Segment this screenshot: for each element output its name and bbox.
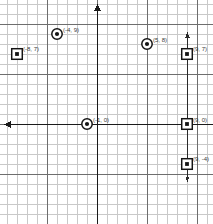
point-marker-square	[181, 48, 194, 61]
point-coordinate-label: (9, 7)	[193, 46, 207, 52]
point-marker-square	[11, 48, 24, 61]
grid-and-axes-layer	[0, 0, 213, 224]
point-coordinate-label: (-1, 0)	[93, 117, 109, 123]
point-marker-square	[181, 118, 194, 131]
point-coordinate-label: (-4, 9)	[63, 27, 79, 33]
coordinate-plot-figure: (-4, 9) (5, 8) (-8, 7) (9, 7) (-1, 0)	[0, 0, 213, 224]
point-coordinate-label: (9, -4)	[193, 156, 209, 162]
point-coordinate-label: (5, 8)	[153, 37, 167, 43]
minor-gridlines	[0, 0, 213, 224]
major-gridlines	[0, 0, 213, 224]
point-marker-circle	[51, 28, 64, 41]
point-coordinate-label: (-8, 7)	[23, 46, 39, 52]
point-coordinate-label: (9, 0)	[193, 117, 207, 123]
point-marker-square	[181, 158, 194, 171]
point-marker-circle	[81, 118, 94, 131]
point-marker-circle	[141, 38, 154, 51]
